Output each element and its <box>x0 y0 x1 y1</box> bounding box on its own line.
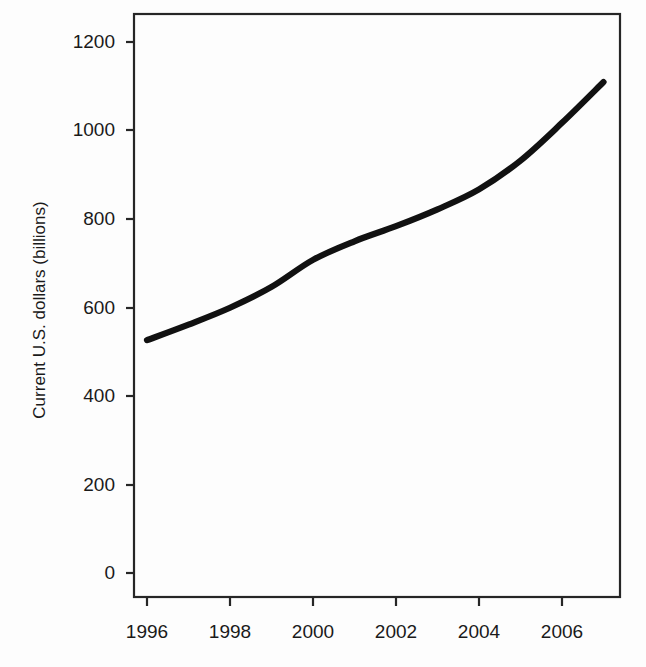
data-line-series-0 <box>147 82 604 340</box>
y-tick-marks <box>126 42 134 573</box>
plot-frame <box>134 14 620 597</box>
plot-area <box>0 0 646 667</box>
chart-figure: Current U.S. dollars (billions) 1200 100… <box>0 0 646 667</box>
x-tick-marks <box>147 597 562 606</box>
